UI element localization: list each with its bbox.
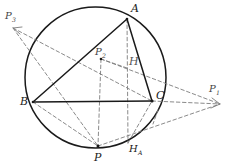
altitude-A-HA — [127, 19, 128, 143]
geometry-diagram: A B C H P HA P1 P2 P3 — [0, 0, 230, 167]
diagram-canvas — [0, 0, 230, 167]
segment-P2-P — [98, 59, 101, 146]
label-A: A — [131, 3, 139, 17]
dashed-construction-lines — [13, 19, 220, 146]
label-H: H — [129, 56, 139, 70]
label-P: P — [94, 152, 102, 166]
label-C: C — [156, 90, 165, 104]
label-B: B — [20, 96, 28, 110]
segment-P-P1 — [98, 104, 220, 146]
label-P1: P1 — [209, 84, 220, 96]
arrowheads — [13, 27, 220, 108]
side-AB — [33, 19, 127, 102]
point-B-dot — [32, 101, 35, 104]
vertex-dots — [32, 18, 154, 148]
segment-HA-C — [128, 101, 152, 143]
point-A-dot — [126, 18, 129, 21]
label-P2: P2 — [95, 47, 106, 59]
label-P3: P3 — [5, 11, 16, 23]
label-HA: HA — [129, 144, 143, 156]
point-P-dot — [97, 145, 100, 148]
segment-H-P2 — [101, 59, 127, 68]
side-BC — [33, 101, 152, 102]
point-C-dot — [150, 99, 153, 102]
arrowhead-P1 — [211, 98, 220, 108]
